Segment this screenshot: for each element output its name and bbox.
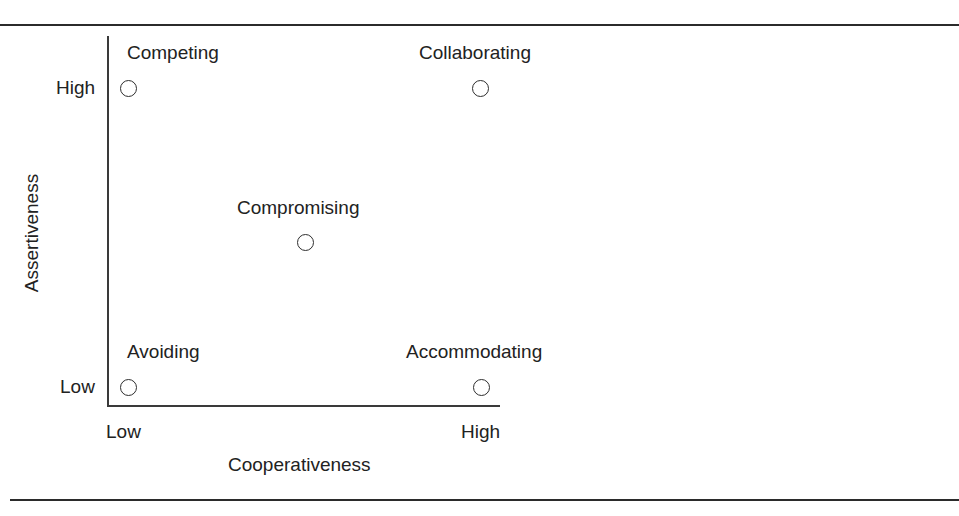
y-axis-line — [107, 36, 109, 407]
data-point-avoiding — [120, 379, 137, 396]
conflict-modes-figure: Competing Collaborating Compromising Avo… — [0, 0, 959, 516]
node-label-competing: Competing — [127, 42, 219, 64]
data-point-compromising — [297, 234, 314, 251]
data-point-collaborating — [472, 80, 489, 97]
y-axis-tick-high: High — [56, 77, 95, 99]
x-axis-title: Cooperativeness — [228, 454, 371, 476]
data-point-competing — [120, 80, 137, 97]
x-axis-line — [107, 405, 500, 407]
y-axis-title: Assertiveness — [21, 158, 43, 308]
data-point-accommodating — [473, 379, 490, 396]
y-axis-tick-low: Low — [60, 376, 95, 398]
top-divider-rule — [0, 24, 959, 26]
node-label-avoiding: Avoiding — [127, 341, 200, 363]
node-label-compromising: Compromising — [237, 197, 359, 219]
node-label-accommodating: Accommodating — [406, 341, 542, 363]
node-label-collaborating: Collaborating — [419, 42, 531, 64]
x-axis-tick-low: Low — [106, 421, 141, 443]
bottom-divider-rule — [10, 499, 959, 501]
x-axis-tick-high: High — [461, 421, 500, 443]
